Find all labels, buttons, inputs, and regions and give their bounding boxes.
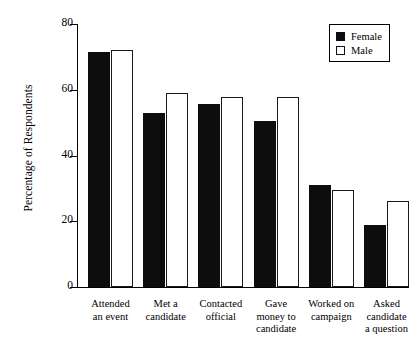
bar-group [364,24,409,287]
bar-group [309,24,354,287]
bar-male [221,97,243,287]
bar-male [332,190,354,287]
y-tick-label: 80 [62,16,74,28]
legend-swatch-male-icon [336,46,345,55]
bar-female [309,185,331,287]
bar-group [88,24,133,287]
bar-male [166,93,188,287]
bar-female [88,52,110,287]
legend-label-male: Male [351,45,373,56]
x-category-label: Askedcandidatea question [344,298,419,336]
plot-area: 020406080 Attendedan eventMet acandidate… [77,24,409,288]
legend-swatch-female-icon [336,32,345,41]
legend-item-female: Female [336,29,382,43]
legend-item-male: Male [336,43,382,57]
bar-male [111,50,133,287]
bar-male [387,201,409,287]
bar-female [254,121,276,287]
bar-chart: Percentage of Respondents 020406080 Atte… [0,0,419,349]
bar-male [277,97,299,287]
y-tick-label: 0 [67,279,73,291]
bar-female [143,113,165,287]
bar-female [364,225,386,287]
y-tick-label: 40 [62,148,74,160]
bar-female [198,104,220,287]
bar-group [254,24,299,287]
x-axis-line [77,287,409,288]
legend-label-female: Female [351,31,382,42]
y-tick-label: 20 [62,213,74,225]
bar-group [198,24,243,287]
bar-group [143,24,188,287]
legend: Female Male [329,24,390,62]
y-axis-line [77,24,78,288]
y-axis-title: Percentage of Respondents [22,38,34,258]
y-tick-label: 60 [62,82,74,94]
